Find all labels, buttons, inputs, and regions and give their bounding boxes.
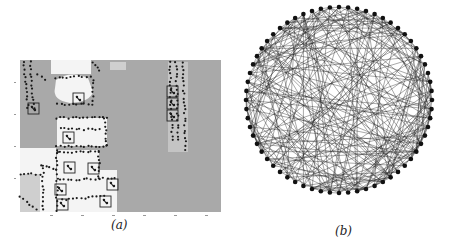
subfigure-a [0,0,230,252]
subfigure-b [230,0,453,252]
caption-a: (a) [111,218,128,232]
map-plot [0,0,230,252]
circular-graph [230,0,453,252]
caption-b: (b) [335,224,352,238]
